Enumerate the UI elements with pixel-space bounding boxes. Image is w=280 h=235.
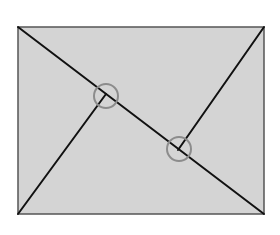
diagram-canvas <box>0 0 280 235</box>
